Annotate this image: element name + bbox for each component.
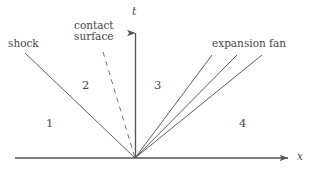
region-label-4: 4 (239, 117, 246, 129)
contact-surface-label: contact surface (74, 20, 114, 43)
wave-diagram-figure: t x shock contact surface expansion fan … (0, 0, 313, 179)
expansion-fan-ray-middle (135, 55, 237, 158)
expansion-fan-ray-tail (135, 55, 262, 158)
shock-line (25, 53, 135, 158)
shock-label: shock (8, 38, 39, 49)
expansion-fan-ray-head (135, 55, 212, 158)
t-axis-label: t (132, 6, 136, 17)
region-label-1: 1 (46, 117, 53, 129)
expansion-fan-label: expansion fan (212, 38, 286, 49)
contact-surface-label-line2: surface (74, 31, 114, 42)
x-axis-label: x (297, 151, 303, 162)
region-label-2: 2 (82, 79, 89, 91)
region-label-3: 3 (154, 79, 161, 91)
